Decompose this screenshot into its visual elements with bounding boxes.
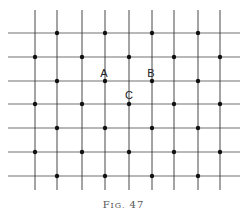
lattice-dot <box>103 31 107 35</box>
lattice-dot <box>196 174 200 178</box>
lattice-dot <box>150 79 154 83</box>
lattice-dot <box>150 31 154 35</box>
lattice-dot <box>150 174 154 178</box>
lattice-dot <box>33 55 37 59</box>
lattice-dot <box>55 174 59 178</box>
lattice-dot <box>55 31 59 35</box>
lattice-dot <box>103 126 107 130</box>
lattice-dot <box>196 126 200 130</box>
lattice-dot <box>55 79 59 83</box>
lattice-dot <box>150 126 154 130</box>
horizontal-grid-lines <box>8 33 240 176</box>
point-label-c: C <box>125 89 133 101</box>
lattice-dot <box>218 55 222 59</box>
lattice-dot <box>80 150 84 154</box>
lattice-dot <box>33 102 37 106</box>
lattice-dot <box>172 102 176 106</box>
lattice-dot <box>218 150 222 154</box>
lattice-dot <box>172 150 176 154</box>
caption-number: 47 <box>130 199 145 210</box>
caption-prefix: F <box>103 199 111 210</box>
point-label-a: A <box>100 67 108 79</box>
lattice-dot <box>127 102 131 106</box>
lattice-dot <box>196 31 200 35</box>
lattice-dots <box>33 31 222 178</box>
figure-caption: FIG. 47 <box>0 199 247 210</box>
lattice-dot <box>218 102 222 106</box>
point-labels: ABC <box>100 67 154 101</box>
lattice-dot <box>127 55 131 59</box>
lattice-dot <box>33 150 37 154</box>
lattice-dot <box>172 55 176 59</box>
lattice-dot <box>80 55 84 59</box>
lattice-dot <box>103 174 107 178</box>
point-label-b: B <box>147 67 154 79</box>
lattice-dot <box>80 102 84 106</box>
lattice-dot <box>127 150 131 154</box>
caption-smallcaps: IG. <box>111 201 126 210</box>
lattice-dot <box>103 79 107 83</box>
lattice-dot <box>55 126 59 130</box>
lattice-diagram: ABC <box>0 0 247 217</box>
lattice-dot <box>196 79 200 83</box>
